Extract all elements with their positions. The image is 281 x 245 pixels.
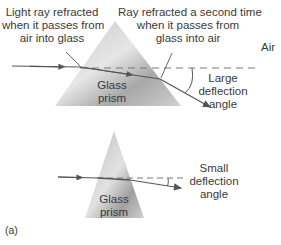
- small-deflection-arc: [168, 178, 169, 186]
- large-deflection-angle-label: Large deflection angle: [193, 72, 253, 111]
- small-prism-label: Glass prism: [94, 193, 134, 219]
- panel-label: (a): [5, 224, 18, 237]
- large-deflection-arc: [185, 68, 193, 93]
- small-ray-arrow-in: [58, 177, 80, 178]
- entry-pointer-line: [66, 52, 80, 66]
- large-ray-arrow-in: [30, 66, 62, 67]
- exit-refraction-label: Ray refracted a second time when it pass…: [118, 6, 258, 45]
- small-deflection-angle-label: Small deflection angle: [184, 162, 244, 201]
- exit-pointer-line: [161, 53, 172, 78]
- large-prism-label: Glass prism: [92, 79, 132, 105]
- prism-deflection-diagram: Light ray refracted when it passes from …: [0, 0, 281, 245]
- small-ray-outgoing: [130, 180, 181, 188]
- air-label: Air: [261, 41, 275, 54]
- entry-refraction-label: Light ray refracted when it passes from …: [2, 6, 102, 45]
